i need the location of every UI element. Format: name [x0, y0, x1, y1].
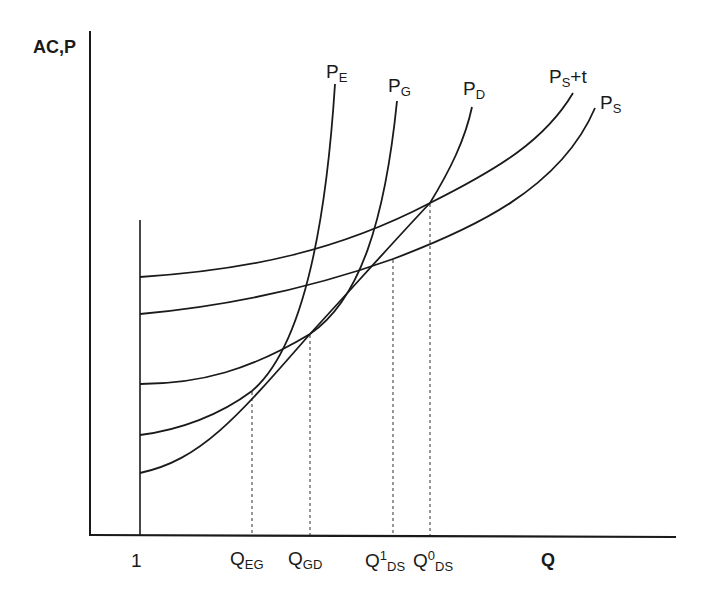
label-pg-main: P	[388, 75, 401, 96]
tick-label-q0ds: Q0DS	[413, 549, 453, 573]
tick-label-one: 1	[131, 551, 142, 570]
label-pe-sub: E	[339, 70, 348, 85]
tick-label-qeg: QEG	[230, 549, 264, 571]
curve-ps-plus-t	[140, 93, 573, 277]
tick-qgd-sub: GD	[303, 557, 323, 572]
label-pd-sub: D	[476, 87, 485, 102]
curve-ps	[140, 108, 595, 314]
label-ps-main: P	[600, 92, 613, 113]
x-axis	[89, 535, 676, 537]
x-axis-label: Q	[541, 551, 555, 569]
tick-q1ds-sup: 1	[380, 548, 387, 563]
label-pg: PG	[388, 76, 411, 98]
tick-q0ds-sub: DS	[435, 559, 453, 574]
diagram-canvas	[0, 0, 713, 591]
label-ps: PS	[600, 93, 621, 115]
label-ps-plus-t: PS+t	[549, 67, 587, 89]
label-pd: PD	[463, 79, 485, 101]
label-pe-main: P	[326, 61, 339, 82]
tick-qeg-sub: EG	[245, 557, 264, 572]
label-pst-suffix: +t	[570, 66, 586, 87]
tick-qeg-main: Q	[230, 548, 245, 569]
tick-q0ds-main: Q	[413, 550, 428, 571]
curve-pg	[140, 101, 397, 384]
label-pe: PE	[326, 62, 347, 84]
y-axis-label: AC,P	[33, 38, 76, 56]
tick-label-qgd: QGD	[288, 549, 322, 571]
label-ps-sub: S	[613, 101, 622, 116]
label-pd-main: P	[463, 78, 476, 99]
curve-pd	[140, 107, 472, 473]
label-pst-main: P	[549, 66, 562, 87]
tick-qgd-main: Q	[288, 548, 303, 569]
tick-q1ds-sub: DS	[387, 559, 405, 574]
label-pg-sub: G	[401, 84, 411, 99]
tick-q1ds-main: Q	[365, 550, 380, 571]
tick-q0ds-sup: 0	[428, 548, 435, 563]
tick-label-q1ds: Q1DS	[365, 549, 405, 573]
